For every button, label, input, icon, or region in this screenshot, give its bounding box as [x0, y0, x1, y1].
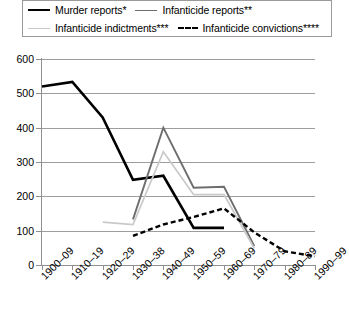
y-axis-tick	[36, 162, 42, 163]
legend-entry-murder-reports: Murder reports*	[28, 5, 126, 16]
legend-row-2: Infanticide indictments*** Infanticide c…	[23, 19, 331, 37]
x-axis-tick	[133, 265, 134, 270]
legend-label-murder-reports: Murder reports*	[55, 5, 126, 16]
y-axis-tick	[36, 93, 42, 94]
x-axis-tick	[163, 265, 164, 270]
legend-entry-infanticide-convictions: Infanticide convictions****	[178, 23, 319, 34]
x-axis-tick	[224, 265, 225, 270]
x-axis-tick	[72, 265, 73, 270]
y-axis-tick-label: 400	[4, 123, 34, 134]
legend-entry-infanticide-indictments: Infanticide indictments***	[28, 23, 169, 34]
chart-legend: Murder reports* Infanticide reports** In…	[22, 0, 332, 37]
gridline	[42, 59, 315, 60]
y-axis-tick	[36, 59, 42, 60]
y-axis-labels: 6005004003002001000	[0, 0, 34, 321]
y-axis-tick	[36, 128, 42, 129]
y-axis-tick-label: 600	[4, 54, 34, 65]
x-axis-tick	[103, 265, 104, 270]
y-axis-tick-label: 300	[4, 157, 34, 168]
y-axis-tick	[36, 196, 42, 197]
x-axis-tick	[315, 265, 316, 270]
gridline	[42, 128, 315, 129]
dashed-black-line-icon	[178, 27, 198, 29]
gridline	[42, 231, 315, 232]
y-axis-tick-label: 500	[4, 88, 34, 99]
x-axis-tick	[194, 265, 195, 270]
plot-area	[42, 59, 315, 265]
gridline	[42, 93, 315, 94]
gridline	[42, 162, 315, 163]
y-axis-tick-label: 100	[4, 226, 34, 237]
gridline	[42, 196, 315, 197]
solid-gray-line-icon	[135, 10, 157, 11]
legend-entry-infanticide-reports: Infanticide reports**	[135, 5, 252, 16]
y-axis-tick	[36, 231, 42, 232]
legend-label-infanticide-convictions: Infanticide convictions****	[203, 23, 319, 34]
x-axis-tick	[285, 265, 286, 270]
gridlines	[42, 59, 315, 265]
x-axis-tick	[42, 265, 43, 270]
y-axis-tick-label: 0	[4, 260, 34, 271]
y-axis-tick-label: 200	[4, 191, 34, 202]
x-axis-tick	[254, 265, 255, 270]
legend-label-infanticide-reports: Infanticide reports**	[162, 5, 252, 16]
legend-row-1: Murder reports* Infanticide reports**	[23, 1, 331, 19]
legend-label-infanticide-indictments: Infanticide indictments***	[55, 23, 169, 34]
